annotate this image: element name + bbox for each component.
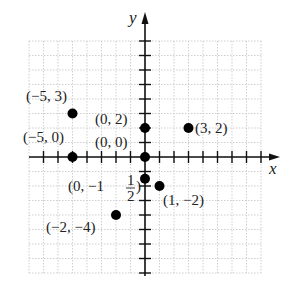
point-label: (−5, 3) — [26, 88, 67, 105]
fraction-denominator: 2 — [127, 188, 135, 204]
point-label: (0, 2) — [95, 111, 128, 128]
data-point — [140, 152, 150, 162]
point-label: (−2, −4) — [46, 219, 95, 236]
y-axis-label: y — [127, 8, 137, 27]
data-point — [184, 123, 194, 133]
x-axis-label: x — [268, 159, 277, 178]
point-label: (0, −1 — [68, 178, 104, 195]
fraction-numerator: 1 — [127, 172, 135, 188]
data-point — [68, 152, 78, 162]
point-label: (3, 2) — [195, 120, 228, 137]
point-label: (1, −2) — [163, 192, 204, 209]
data-point — [111, 210, 121, 220]
point-label: (−5, 0) — [23, 129, 64, 146]
data-point — [140, 123, 150, 133]
data-point — [140, 174, 150, 184]
closing-paren: ) — [136, 178, 141, 195]
coordinate-plane: x y (−5, 3)(0, 2)(3, 2)(−5, 0)(0, 0)(0, … — [0, 0, 301, 291]
y-axis-arrow-icon — [142, 12, 149, 24]
point-labels: (−5, 3)(0, 2)(3, 2)(−5, 0)(0, 0)(0, −112… — [23, 88, 228, 236]
point-label: (0, 0) — [95, 134, 128, 151]
axes — [29, 12, 280, 276]
data-point — [155, 181, 165, 191]
data-point — [68, 109, 78, 119]
